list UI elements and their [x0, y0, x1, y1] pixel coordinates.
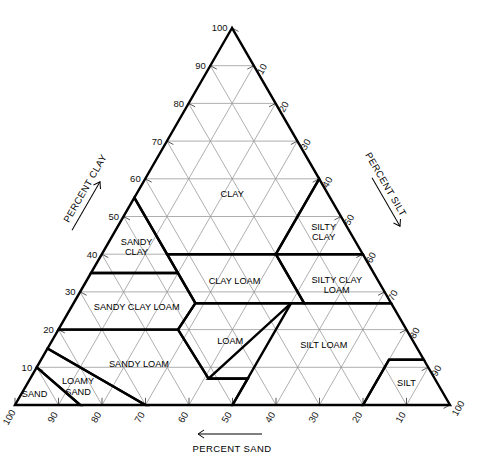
class-label-clay-loam: CLAY LOAM — [209, 276, 261, 286]
axis-label-clay-50: 50 — [108, 211, 119, 222]
class-label-silty-clay: SILTYCLAY — [311, 222, 336, 243]
axis-label-sand-10: 10 — [393, 410, 408, 425]
class-label-sandy-clay: SANDYCLAY — [121, 237, 153, 258]
axis-label-sand-70: 70 — [132, 410, 147, 425]
class-label-line: LOAMY — [62, 376, 94, 386]
class-label-sand: SAND — [22, 389, 48, 399]
class-label-sandy-loam: SANDY LOAM — [109, 359, 169, 369]
gridline-sand-10 — [210, 66, 406, 405]
axis-title-silt: PERCENT SILT — [363, 150, 409, 218]
axis-label-clay-100: 100 — [212, 22, 228, 33]
axis-label-silt-20: 20 — [276, 99, 291, 114]
axis-title-sand: PERCENT SAND — [192, 443, 271, 454]
class-label-sandy-clay-loam: SANDY CLAY LOAM — [94, 302, 180, 312]
axis-label-sand-50: 50 — [219, 410, 234, 425]
axis-title-clay: PERCENT CLAY — [61, 152, 109, 224]
axis-label-sand-90: 90 — [45, 410, 60, 425]
axis-label-clay-80: 80 — [174, 98, 185, 109]
class-label-line: LOAM — [324, 285, 350, 295]
class-label-line: SILTY — [311, 222, 336, 232]
axis-label-silt-50: 50 — [342, 212, 357, 227]
axis-title-silt-group: PERCENT SILT — [363, 150, 409, 228]
gridline-sand-30 — [167, 141, 320, 405]
class-label-line: CLAY — [125, 247, 148, 257]
class-label-line: SAND — [65, 387, 91, 397]
axis-arrow-sand — [198, 430, 262, 438]
axis-label-silt-90: 90 — [429, 363, 444, 378]
class-label-line: CLAY LOAM — [209, 276, 261, 286]
axis-label-clay-30: 30 — [65, 286, 76, 297]
class-label-clay: CLAY — [221, 189, 244, 199]
axis-label-clay-70: 70 — [152, 136, 163, 147]
class-label-line: SILT LOAM — [300, 340, 347, 350]
gridline-sand-90 — [37, 367, 59, 405]
class-label-line: SANDY CLAY LOAM — [94, 302, 180, 312]
axis-label-sand-20: 20 — [350, 410, 365, 425]
class-label-silt: SILT — [397, 378, 416, 388]
axis-title-clay-group: PERCENT CLAY — [61, 152, 109, 232]
axis-label-sand-40: 40 — [263, 410, 278, 425]
axis-label-silt-80: 80 — [407, 326, 422, 341]
class-label-line: SANDY — [121, 237, 153, 247]
axis-label-sand-100: 100 — [0, 408, 17, 427]
axis-label-silt-60: 60 — [363, 250, 378, 265]
class-label-line: SILTY CLAY — [311, 275, 362, 285]
axis-label-clay-90: 90 — [195, 60, 206, 71]
class-label-line: CLAY — [221, 189, 244, 199]
class-label-line: SILT — [397, 378, 416, 388]
class-label-silt-loam: SILT LOAM — [300, 340, 347, 350]
grid-lines-layer — [37, 66, 429, 405]
axis-label-silt-70: 70 — [385, 288, 400, 303]
class-label-line: SAND — [22, 389, 48, 399]
axis-title-sand-group: PERCENT SAND — [192, 430, 271, 454]
class-boundary-sandy-clay-loam — [58, 273, 195, 330]
axis-ticks-layer — [15, 28, 450, 408]
class-label-line: LOAM — [217, 336, 243, 346]
axis-label-clay-20: 20 — [43, 324, 54, 335]
axis-label-clay-10: 10 — [22, 362, 33, 373]
axis-label-silt-30: 30 — [298, 137, 313, 152]
axis-label-sand-30: 30 — [306, 410, 321, 425]
axis-label-silt-40: 40 — [320, 175, 335, 190]
axis-label-sand-60: 60 — [176, 410, 191, 425]
axis-label-sand-80: 80 — [89, 410, 104, 425]
axis-label-silt-100: 100 — [449, 399, 466, 418]
class-label-line: SANDY LOAM — [109, 359, 169, 369]
class-label-line: CLAY — [312, 232, 335, 242]
class-label-loamy-sand: LOAMYSAND — [62, 376, 94, 397]
class-label-loam: LOAM — [217, 336, 243, 346]
axis-label-clay-40: 40 — [87, 249, 98, 260]
axis-label-clay-60: 60 — [130, 173, 141, 184]
soil-texture-triangle-figure: 1020304050607080901001020304050607080901… — [0, 0, 482, 463]
axis-label-silt-10: 10 — [254, 62, 269, 77]
